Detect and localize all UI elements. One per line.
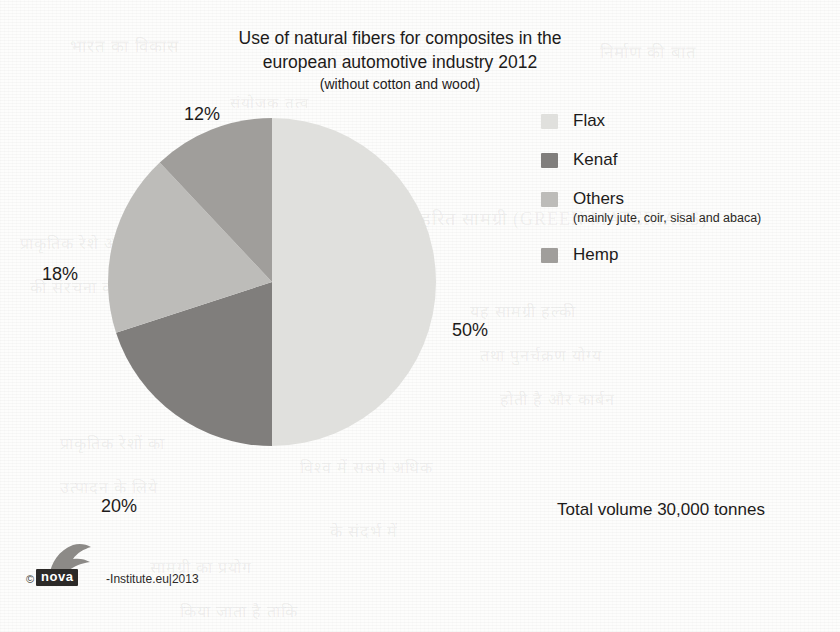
pie-chart-svg — [106, 116, 438, 448]
legend-swatch-icon-hemp — [541, 248, 558, 263]
slice-value-label-flax: 50% — [452, 320, 488, 341]
chart-subtitle: (without cotton and wood) — [150, 74, 650, 94]
chart-title-line-2: european automotive industry 2012 — [150, 50, 650, 74]
chart-title-line-1: Use of natural fibers for composites in … — [150, 26, 650, 50]
showthrough-text: यह सामग्री हल्की — [470, 300, 576, 322]
showthrough-text: विश्व में सबसे अधिक — [300, 456, 433, 478]
pie-slice-flax — [272, 118, 436, 446]
showthrough-text: उत्पादन के लिये — [60, 476, 158, 498]
showthrough-text: संयोजक तत्व — [230, 92, 309, 112]
legend-swatch-icon-others — [541, 192, 558, 207]
legend-label: Flax — [573, 110, 831, 131]
nova-institute-logo: nova — [36, 543, 104, 587]
legend-swatch-icon-flax — [541, 114, 558, 129]
legend-text-wrap: Flax — [573, 110, 831, 131]
slice-value-label-kenaf: 20% — [101, 496, 137, 517]
slice-value-label-hemp: 12% — [184, 104, 220, 125]
copyright-icon: © — [26, 573, 34, 585]
legend-label: Kenaf — [573, 149, 831, 170]
pie-chart — [106, 116, 438, 448]
legend-item-flax[interactable]: Flax — [541, 110, 831, 131]
total-volume-annotation: Total volume 30,000 tonnes — [557, 500, 765, 520]
slice-value-label-others: 18% — [42, 264, 78, 285]
legend-swatch-icon-kenaf — [541, 153, 558, 168]
legend-label: Others — [573, 188, 831, 209]
legend-label: Hemp — [573, 244, 831, 265]
pie-slices — [108, 118, 436, 446]
legend-sublabel: (mainly jute, coir, sisal and abaca) — [573, 210, 831, 226]
chart-legend: FlaxKenafOthers(mainly jute, coir, sisal… — [541, 110, 831, 265]
chart-title-block: Use of natural fibers for composites in … — [150, 26, 650, 94]
showthrough-text: तथा पुनर्चक्रण योग्य — [480, 344, 602, 366]
credit-text: -Institute.eu|2013 — [106, 572, 199, 586]
legend-item-hemp[interactable]: Hemp — [541, 244, 831, 265]
legend-text-wrap: Others(mainly jute, coir, sisal and abac… — [573, 188, 831, 226]
source-credit: © nova -Institute.eu|2013 — [26, 543, 199, 587]
legend-text-wrap: Hemp — [573, 244, 831, 265]
showthrough-text: के संदर्भ में — [330, 520, 398, 542]
legend-item-kenaf[interactable]: Kenaf — [541, 149, 831, 170]
legend-text-wrap: Kenaf — [573, 149, 831, 170]
showthrough-text: होती है और कार्बन — [500, 388, 615, 410]
chart-figure: भारत का विकासनिर्माण की बातसंयोजक तत्व2.… — [0, 0, 840, 632]
legend-item-others[interactable]: Others(mainly jute, coir, sisal and abac… — [541, 188, 831, 226]
nova-wordmark: nova — [36, 569, 78, 586]
showthrough-text: किया जाता है ताकि — [180, 600, 298, 622]
